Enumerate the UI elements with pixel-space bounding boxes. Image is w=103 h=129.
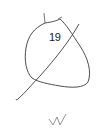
- north-mark-icon: [49, 114, 66, 125]
- top-tick-line: [44, 13, 45, 23]
- shape-label: 19: [49, 32, 61, 43]
- circle-outline: [25, 19, 89, 87]
- sketch-drawing: [0, 0, 103, 129]
